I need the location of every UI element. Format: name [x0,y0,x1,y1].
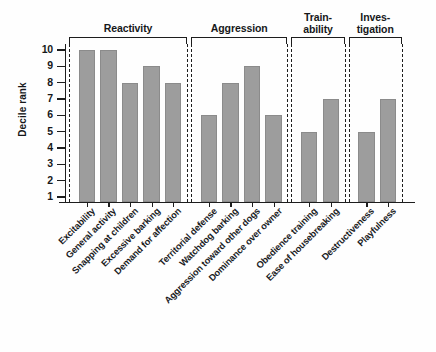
y-tick-label-5: 5 [19,125,53,137]
x-tick-label: Aggression toward other dogs [163,206,262,305]
group-label-line: Reactivity [69,23,187,35]
group-bracket-investigation [349,37,402,44]
y-tick-4 [57,147,65,148]
y-tick-label-4: 4 [19,141,53,153]
y-tick-8 [57,82,65,83]
group-bracket-trainability [291,37,344,44]
x-tick-mark [274,202,275,207]
bar [165,83,182,202]
y-tick-label-7: 7 [19,92,53,104]
group-label-aggression: Aggression [191,23,287,35]
group-bracket-aggression [191,37,287,44]
bar [358,132,375,202]
bar [100,50,117,202]
y-tick-label-10: 10 [19,43,53,55]
bar [301,132,318,202]
group-label-line: tigation [349,24,402,36]
y-tick-label-1: 1 [19,190,53,202]
y-tick-label-6: 6 [19,108,53,120]
bar [380,99,397,202]
y-tick-2 [57,180,65,181]
y-tick-3 [57,164,65,165]
bar [122,83,139,202]
bar [222,83,239,202]
bar [79,50,96,202]
y-tick-10 [57,49,65,50]
group-label-line: Aggression [191,23,287,35]
group-label-reactivity: Reactivity [69,23,187,35]
y-tick-6 [57,115,65,116]
x-tick-mark [152,202,153,207]
bar [265,115,282,202]
y-tick-9 [57,66,65,67]
bar [143,66,160,202]
y-tick-5 [57,131,65,132]
bar [323,99,340,202]
group-label-investigation: Inves-tigation [349,12,402,35]
y-tick-1 [57,196,65,197]
group-label-line: Inves- [349,12,402,24]
group-label-line: Train- [291,12,344,24]
group-bracket-reactivity [69,37,187,44]
bars-container [66,44,410,197]
y-tick-label-8: 8 [19,76,53,88]
bar [201,115,218,202]
x-axis-line [59,202,415,203]
y-tick-label-9: 9 [19,59,53,71]
y-tick-7 [57,98,65,99]
bar-chart-figure: Decile rank 10987654321 ReactivityAggres… [0,0,436,352]
group-label-trainability: Train-ability [291,12,344,35]
y-tick-label-3: 3 [19,157,53,169]
bar [244,66,261,202]
y-tick-label-2: 2 [19,174,53,186]
group-label-line: ability [291,24,344,36]
